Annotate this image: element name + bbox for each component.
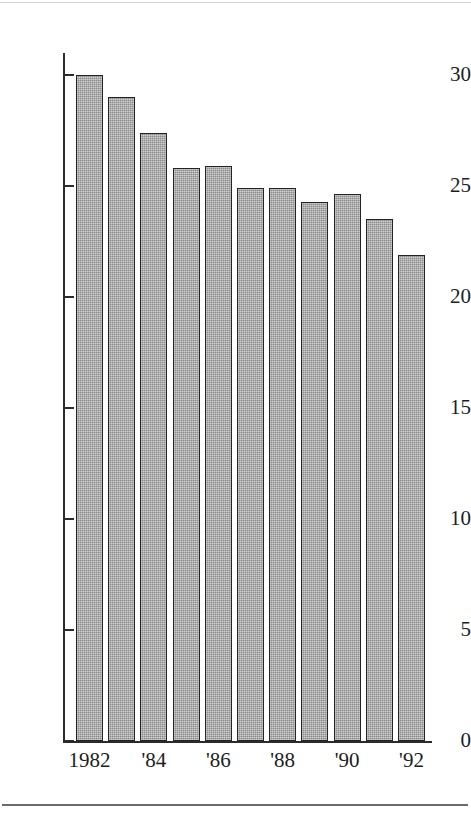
bar <box>398 255 425 741</box>
bar <box>269 188 296 741</box>
bar <box>366 219 393 741</box>
bar <box>205 166 232 741</box>
bar <box>108 97 135 741</box>
x-axis-tick-label: '88 <box>270 748 295 772</box>
bar <box>237 188 264 741</box>
bar <box>76 75 103 741</box>
bar <box>334 194 361 741</box>
bar <box>173 168 200 741</box>
bar <box>301 202 328 741</box>
x-axis-tick-label: '92 <box>399 748 424 772</box>
bar-series <box>0 0 471 800</box>
bar <box>140 133 167 741</box>
x-axis-tick-label: 1982 <box>69 748 111 772</box>
bar-chart-plot-area: 051015202530 1982'84'86'88'90'92 <box>0 0 471 800</box>
x-axis-tick-label: '84 <box>141 748 166 772</box>
bottom-rule-divider <box>2 804 468 806</box>
x-axis-tick-label: '86 <box>206 748 231 772</box>
figure-container: 051015202530 1982'84'86'88'90'92 <box>0 0 471 818</box>
x-axis-tick-label: '90 <box>335 748 360 772</box>
